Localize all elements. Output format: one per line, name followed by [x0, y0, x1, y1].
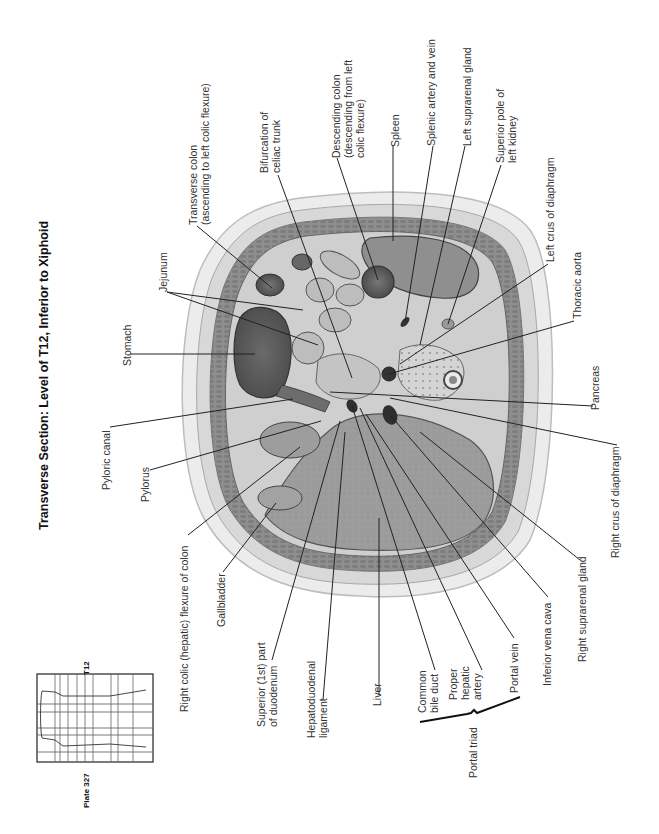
- label-superior-duodenum: Superior (1st) part of duodenum: [255, 642, 279, 727]
- right-colic-flexure: [260, 422, 320, 458]
- gallbladder: [258, 486, 302, 510]
- label-text: Portal triad: [467, 727, 479, 778]
- label-text: Pancreas: [589, 366, 601, 410]
- label-text: Proper: [447, 666, 459, 700]
- label-text: colic flexure): [354, 60, 366, 158]
- label-transverse-colon: Transverse colon (ascending to left coli…: [187, 83, 211, 225]
- label-spleen: Spleen: [389, 114, 401, 147]
- label-text: Common: [416, 670, 428, 713]
- label-text: Portal vein: [508, 643, 520, 693]
- label-text: Spleen: [389, 114, 401, 147]
- label-text: left kidney: [506, 89, 518, 163]
- label-splenic-artery-vein: Splenic artery and vein: [425, 39, 437, 146]
- plate-title: Transverse Section: Level of T12, Inferi…: [37, 221, 51, 530]
- label-text: Pyloric canal: [100, 430, 112, 490]
- stomach: [234, 307, 291, 397]
- label-descending-colon: Descending colon (descending from left c…: [330, 60, 366, 158]
- label-text: Stomach: [121, 325, 133, 366]
- label-jejunum: Jejunum: [157, 252, 169, 292]
- label-text: Inferior vena cava: [541, 603, 553, 686]
- label-text: Descending colon: [330, 60, 342, 158]
- label-right-suprarenal-gland: Right suprarenal gland: [576, 556, 588, 662]
- label-text: ligament: [317, 661, 329, 738]
- label-text: hepatic: [459, 666, 471, 700]
- label-right-crus-diaphragm: Right crus of diaphragm: [609, 447, 621, 558]
- label-text: Thoracic aorta: [571, 252, 583, 319]
- label-portal-vein: Portal vein: [508, 643, 520, 693]
- transverse-colon: [256, 274, 284, 296]
- label-liver: Liver: [371, 683, 383, 706]
- label-pylorus: Pylorus: [139, 467, 151, 502]
- label-thoracic-aorta: Thoracic aorta: [571, 252, 583, 319]
- label-text: Splenic artery and vein: [425, 39, 437, 146]
- label-text: Bifurcation of: [258, 112, 270, 173]
- label-hepatoduodenal-ligament: Hepatoduodenal ligament: [305, 661, 329, 738]
- label-left-crus-diaphragm: Left crus of diaphragm: [544, 158, 556, 262]
- label-text: artery: [471, 666, 483, 700]
- label-text: Hepatoduodenal: [305, 661, 317, 738]
- descending-colon: [362, 266, 394, 298]
- label-text: Right crus of diaphragm: [609, 447, 621, 558]
- label-inferior-vena-cava: Inferior vena cava: [541, 603, 553, 686]
- locator-level-label: T12: [82, 661, 91, 675]
- label-text: Left crus of diaphragm: [544, 158, 556, 262]
- label-text: Superior pole of: [494, 89, 506, 163]
- label-portal-triad: Portal triad: [467, 727, 479, 778]
- plate-number: Plate 327: [82, 773, 91, 808]
- label-stomach: Stomach: [121, 325, 133, 366]
- label-text: Transverse colon: [187, 83, 199, 225]
- label-text: (ascending to left colic flexure): [199, 83, 211, 225]
- label-text: Pylorus: [139, 467, 151, 502]
- label-text: celiac trunk: [270, 112, 282, 173]
- label-proper-hepatic-artery: Proper hepatic artery: [447, 666, 483, 700]
- label-common-bile-duct: Common bile duct: [416, 670, 440, 713]
- label-text: Liver: [371, 683, 383, 706]
- label-text: Right colic (hepatic) flexure of colon: [178, 546, 190, 712]
- label-text: Gallbladder: [215, 573, 227, 627]
- label-text: Right suprarenal gland: [576, 556, 588, 662]
- label-pyloric-canal: Pyloric canal: [100, 430, 112, 490]
- label-superior-pole-left-kidney: Superior pole of left kidney: [494, 89, 518, 163]
- label-text: of duodenum: [267, 642, 279, 727]
- label-right-colic-flexure: Right colic (hepatic) flexure of colon: [178, 546, 190, 712]
- label-text: (descending from left: [342, 60, 354, 158]
- locator-thumbnail: [37, 674, 153, 762]
- label-pancreas: Pancreas: [589, 366, 601, 410]
- label-text: bile duct: [428, 670, 440, 713]
- label-bifurcation-celiac-trunk: Bifurcation of celiac trunk: [258, 112, 282, 173]
- label-left-suprarenal-gland: Left suprarenal gland: [461, 47, 473, 146]
- label-text: Jejunum: [157, 252, 169, 292]
- label-text: Superior (1st) part: [255, 642, 267, 727]
- label-text: Left suprarenal gland: [461, 47, 473, 146]
- label-gallbladder: Gallbladder: [215, 573, 227, 627]
